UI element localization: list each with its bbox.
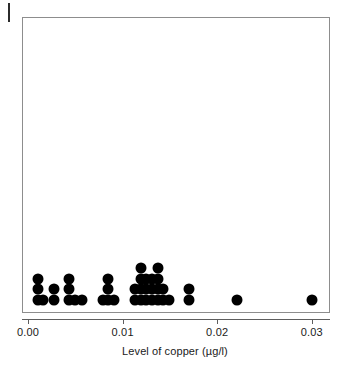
x-axis-tick: [28, 319, 29, 324]
x-axis-tick: [312, 319, 313, 324]
x-axis-tick-label: 0.00: [17, 326, 39, 338]
x-axis-tick-label: 0.03: [301, 326, 323, 338]
x-axis-line: [22, 319, 330, 320]
x-axis-tick: [217, 319, 218, 324]
x-axis-title: Level of copper (µg/l): [0, 345, 350, 357]
x-axis-tick-label: 0.02: [206, 326, 228, 338]
x-axis-tick-label: 0.01: [111, 326, 133, 338]
dot-plot-figure: 0.000.010.020.03 Level of copper (µg/l): [0, 0, 350, 374]
x-axis-tick: [123, 319, 124, 324]
x-axis: 0.000.010.020.03 Level of copper (µg/l): [0, 0, 350, 374]
